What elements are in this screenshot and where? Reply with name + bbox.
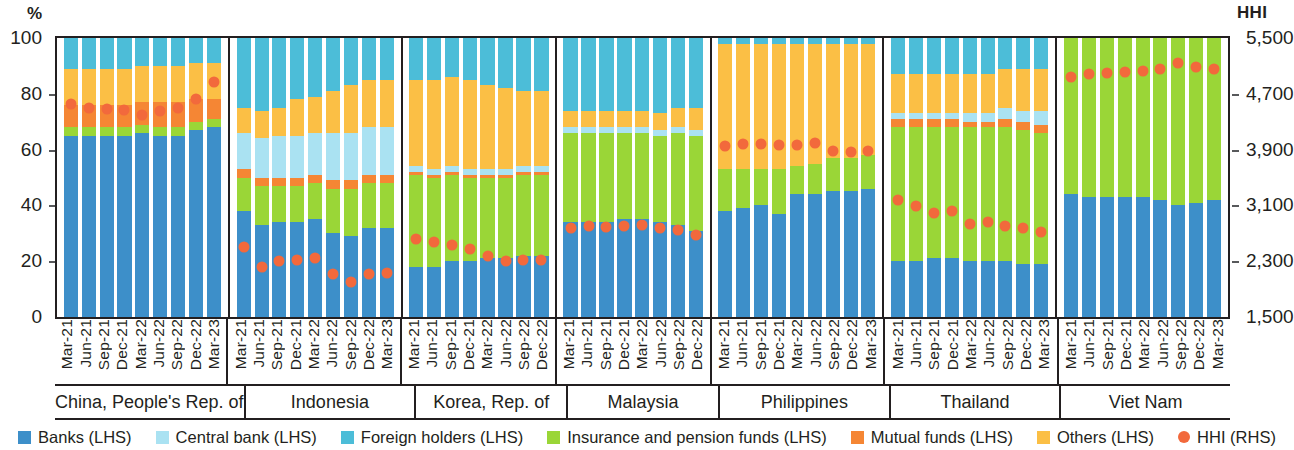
period-label: Mar-21 xyxy=(58,319,76,371)
stacked-bar[interactable] xyxy=(255,38,269,317)
stacked-bar[interactable] xyxy=(689,38,704,317)
country-label-cell: Indonesia xyxy=(246,386,417,418)
stacked-bar[interactable] xyxy=(581,38,596,317)
stacked-bar[interactable] xyxy=(736,38,750,317)
stacked-bar[interactable] xyxy=(380,38,394,317)
stacked-bar[interactable] xyxy=(826,38,840,317)
stacked-bar[interactable] xyxy=(534,38,549,317)
stacked-bar[interactable] xyxy=(861,38,875,317)
period-label: Jun-22 xyxy=(980,319,998,370)
bar-segment xyxy=(362,183,376,228)
stacked-bar[interactable] xyxy=(117,38,131,317)
stacked-bar[interactable] xyxy=(171,38,185,317)
stacked-bar[interactable] xyxy=(135,38,149,317)
hhi-data-point xyxy=(500,256,511,267)
stacked-bar[interactable] xyxy=(480,38,495,317)
stacked-bar[interactable] xyxy=(344,38,358,317)
bar-segment xyxy=(362,175,376,183)
stacked-bar[interactable] xyxy=(1100,38,1114,317)
stacked-bar[interactable] xyxy=(1064,38,1078,317)
stacked-bar[interactable] xyxy=(963,38,977,317)
stacked-bar[interactable] xyxy=(516,38,531,317)
stacked-bar[interactable] xyxy=(599,38,614,317)
stacked-bar[interactable] xyxy=(981,38,995,317)
stacked-bar[interactable] xyxy=(290,38,304,317)
bar-segment xyxy=(117,38,131,69)
stacked-bar[interactable] xyxy=(1034,38,1048,317)
bar-segment xyxy=(326,180,340,188)
bar-segment xyxy=(772,169,786,214)
stacked-bar[interactable] xyxy=(308,38,322,317)
stacked-bar[interactable] xyxy=(445,38,460,317)
stacked-bar[interactable] xyxy=(64,38,78,317)
legend-item[interactable]: Mutual funds (LHS) xyxy=(851,428,1013,447)
stacked-bar[interactable] xyxy=(1136,38,1150,317)
stacked-bar[interactable] xyxy=(153,38,167,317)
stacked-bar[interactable] xyxy=(808,38,822,317)
stacked-bar[interactable] xyxy=(1189,38,1203,317)
stacked-bar[interactable] xyxy=(844,38,858,317)
stacked-bar[interactable] xyxy=(617,38,632,317)
bar-segment xyxy=(516,91,531,166)
period-label: Dec-22 xyxy=(688,319,706,372)
stacked-bar[interactable] xyxy=(1171,38,1185,317)
bar-segment xyxy=(344,133,358,180)
stacked-bar[interactable] xyxy=(891,38,905,317)
stacked-bar[interactable] xyxy=(237,38,251,317)
stacked-bar[interactable] xyxy=(927,38,941,317)
stacked-bar[interactable] xyxy=(754,38,768,317)
bar-segment xyxy=(135,66,149,102)
bar-segment xyxy=(189,122,203,130)
bar-segment xyxy=(891,261,905,317)
legend-item[interactable]: Central bank (LHS) xyxy=(156,428,317,447)
legend-item[interactable]: Insurance and pension funds (LHS) xyxy=(547,428,827,447)
stacked-bar[interactable] xyxy=(463,38,478,317)
stacked-bar[interactable] xyxy=(563,38,578,317)
stacked-bar[interactable] xyxy=(82,38,96,317)
country-panel xyxy=(712,38,885,317)
stacked-bar[interactable] xyxy=(326,38,340,317)
stacked-bar[interactable] xyxy=(1082,38,1096,317)
stacked-bar[interactable] xyxy=(100,38,114,317)
legend-item[interactable]: HHI (RHS) xyxy=(1178,428,1276,447)
stacked-bar[interactable] xyxy=(718,38,732,317)
hhi-data-point xyxy=(1036,226,1047,237)
bar-segment xyxy=(689,108,704,130)
stacked-bar[interactable] xyxy=(362,38,376,317)
right-axis-tick-label: 4,700 xyxy=(1246,83,1294,105)
stacked-bar[interactable] xyxy=(653,38,668,317)
stacked-bar[interactable] xyxy=(427,38,442,317)
stacked-bar[interactable] xyxy=(409,38,424,317)
stacked-bar[interactable] xyxy=(207,38,221,317)
bar-segment xyxy=(409,267,424,317)
bar-segment xyxy=(998,119,1012,127)
bar-segment xyxy=(82,69,96,105)
hhi-data-point xyxy=(464,243,475,254)
stacked-bar[interactable] xyxy=(671,38,686,317)
bar-segment xyxy=(1034,133,1048,264)
stacked-bar[interactable] xyxy=(909,38,923,317)
hhi-data-point xyxy=(446,240,457,251)
stacked-bar[interactable] xyxy=(1153,38,1167,317)
bar-segment xyxy=(653,222,668,317)
stacked-bar[interactable] xyxy=(1207,38,1221,317)
stacked-bar[interactable] xyxy=(635,38,650,317)
stacked-bar[interactable] xyxy=(189,38,203,317)
stacked-bar[interactable] xyxy=(1016,38,1030,317)
bar-segment xyxy=(1118,197,1132,317)
legend-item[interactable]: Others (LHS) xyxy=(1037,428,1154,447)
stacked-bar[interactable] xyxy=(945,38,959,317)
legend-item[interactable]: Foreign holders (LHS) xyxy=(341,428,523,447)
stacked-bar[interactable] xyxy=(272,38,286,317)
stacked-bar[interactable] xyxy=(790,38,804,317)
left-axis-tick-label: 40 xyxy=(21,194,42,216)
stacked-bar[interactable] xyxy=(772,38,786,317)
stacked-bar[interactable] xyxy=(998,38,1012,317)
bar-segment xyxy=(844,191,858,317)
period-label: Sep-22 xyxy=(342,319,360,372)
legend-item[interactable]: Banks (LHS) xyxy=(18,428,132,447)
stacked-bar[interactable] xyxy=(1118,38,1132,317)
stacked-bar[interactable] xyxy=(498,38,513,317)
bar-segment xyxy=(826,158,840,191)
bar-segment xyxy=(117,136,131,317)
